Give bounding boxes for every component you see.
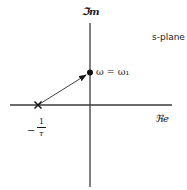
pole-label-sign: − [27,125,35,136]
vector-arrow [38,75,86,105]
pole-label-numerator: 1 [39,117,44,126]
imaginary-axis-label: ℑm [82,7,100,17]
omega-label: ω = ω₁ [96,67,129,77]
real-axis-label: ℜe [155,114,169,124]
pole-label-denominator: τ [39,129,43,138]
plane-title: s-plane [152,33,185,42]
s-plane-diagram [0,0,187,190]
fraction-bar [37,127,46,128]
point-dot-icon [87,70,93,76]
